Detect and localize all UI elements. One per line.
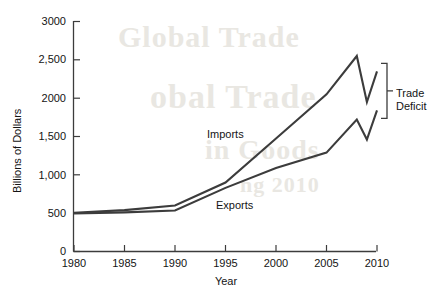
trade-deficit-label-line1: Trade — [396, 87, 427, 100]
x-tick-label-1980: 1980 — [54, 257, 94, 269]
x-tick-label-1990: 1990 — [155, 257, 195, 269]
x-tick-label-1985: 1985 — [105, 257, 145, 269]
y-tick-label-0: 0 — [14, 245, 66, 257]
y-axis-ticks — [74, 22, 81, 252]
x-tick-label-2010: 2010 — [357, 257, 397, 269]
y-axis-title: Billions of Dollars — [11, 109, 23, 193]
trade-deficit-bracket — [381, 63, 393, 118]
trade-deficit-label-line2: Deficit — [396, 100, 427, 113]
x-tick-label-1995: 1995 — [206, 257, 246, 269]
x-tick-label-2000: 2000 — [256, 257, 296, 269]
trade-line-chart: Global Trade obal Trade in Goods ng 2010 — [0, 0, 437, 300]
series-label-exports: Exports — [216, 199, 253, 211]
trade-deficit-label: Trade Deficit — [396, 87, 427, 113]
y-tick-label-500: 500 — [14, 207, 66, 219]
y-tick-label-3000: 3000 — [14, 15, 66, 27]
series-label-imports: Imports — [207, 128, 244, 140]
x-tick-label-2005: 2005 — [307, 257, 347, 269]
x-axis-title: Year — [208, 275, 244, 287]
y-tick-label-2500: 2,500 — [14, 53, 66, 65]
y-tick-label-2000: 2000 — [14, 92, 66, 104]
x-axis-ticks — [74, 245, 377, 252]
